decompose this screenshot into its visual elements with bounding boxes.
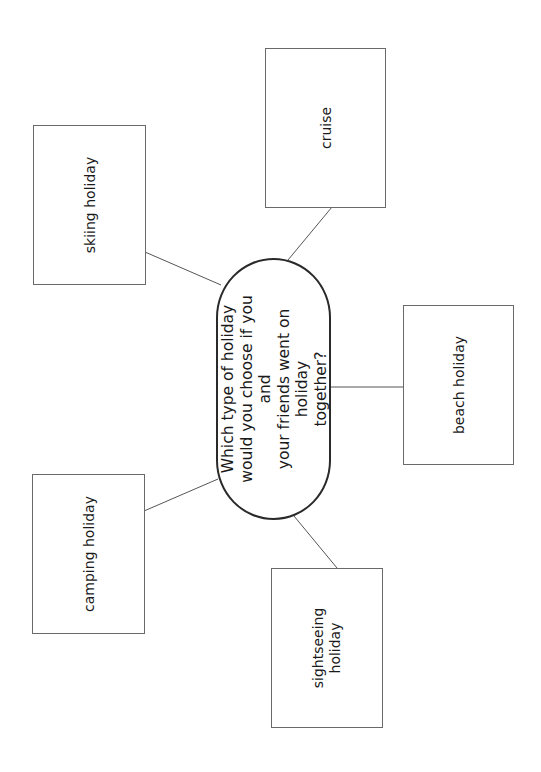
label-line: sightseeing bbox=[310, 608, 327, 689]
option-box-cruise: cruise bbox=[265, 48, 386, 208]
question-line: your friends went on holiday bbox=[274, 289, 311, 489]
label-line: camping holiday bbox=[80, 496, 97, 612]
question-line: together? bbox=[311, 289, 330, 489]
label-line: holiday bbox=[327, 608, 344, 689]
question-line: would you choose if you and bbox=[237, 289, 274, 489]
option-label-sightseeing: sightseeing holiday bbox=[310, 608, 344, 689]
option-label-cruise: cruise bbox=[317, 107, 334, 149]
question-line: Which type of holiday bbox=[218, 289, 237, 489]
connector-cruise bbox=[288, 207, 332, 260]
option-box-skiing: skiing holiday bbox=[33, 125, 146, 285]
option-box-sightseeing: sightseeing holiday bbox=[271, 568, 383, 728]
option-box-beach: beach holiday bbox=[403, 305, 514, 465]
option-label-skiing: skiing holiday bbox=[81, 157, 98, 253]
central-question-oval: Which type of holiday would you choose i… bbox=[216, 258, 331, 520]
connector-sightseeing bbox=[294, 516, 337, 568]
central-question-text: Which type of holiday would you choose i… bbox=[218, 289, 329, 489]
option-label-camping: camping holiday bbox=[80, 496, 97, 612]
label-line: skiing holiday bbox=[81, 157, 98, 253]
label-line: cruise bbox=[317, 107, 334, 149]
label-line: beach holiday bbox=[450, 336, 467, 434]
option-box-camping: camping holiday bbox=[32, 474, 145, 634]
option-label-beach: beach holiday bbox=[450, 336, 467, 434]
connector-camping bbox=[144, 479, 218, 511]
connector-skiing bbox=[145, 252, 221, 285]
